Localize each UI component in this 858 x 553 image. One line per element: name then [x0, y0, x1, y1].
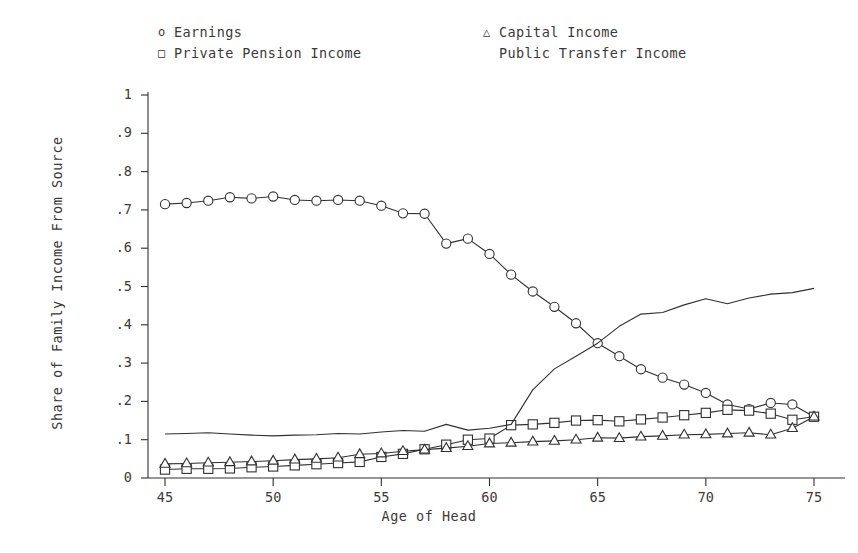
legend-label-capital-income: Capital Income: [499, 22, 618, 43]
data-point-marker: [182, 458, 192, 467]
data-point-marker: [701, 429, 711, 438]
x-axis-tick-label: 50: [253, 489, 293, 505]
triangle-marker-icon: △: [483, 22, 499, 43]
x-axis-tick-label: 60: [470, 489, 510, 505]
y-axis-tick-label: .6: [92, 239, 132, 255]
y-axis-tick-label: .2: [92, 392, 132, 408]
data-point-marker: [679, 429, 689, 438]
data-point-marker: [593, 416, 602, 425]
x-axis-tick-label: 55: [361, 489, 401, 505]
data-point-marker: [701, 408, 710, 417]
data-point-marker: [745, 406, 754, 415]
x-axis-tick-label: 45: [145, 489, 185, 505]
y-axis-tick-label: .8: [92, 163, 132, 179]
legend-column-right: △ Capital Income Public Transfer Income: [483, 22, 687, 64]
square-marker-icon: □: [158, 43, 174, 64]
data-point-marker: [744, 427, 754, 436]
data-point-marker: [290, 195, 299, 204]
data-point-marker: [269, 192, 278, 201]
data-point-marker: [377, 201, 386, 210]
legend-label-earnings: Earnings: [174, 22, 242, 43]
x-axis-tick-label: 65: [578, 489, 618, 505]
data-point-marker: [225, 193, 234, 202]
y-axis-tick-label: 1: [92, 86, 132, 102]
data-point-marker: [528, 287, 537, 296]
data-point-marker: [658, 373, 667, 382]
legend-item-earnings: o Earnings: [158, 22, 362, 43]
data-point-marker: [160, 200, 169, 209]
data-point-marker: [485, 249, 494, 258]
legend-label-private-pension-income: Private Pension Income: [174, 43, 362, 64]
data-point-marker: [788, 400, 797, 409]
data-point-marker: [507, 270, 516, 279]
data-point-marker: [766, 398, 775, 407]
y-axis-tick-label: .1: [92, 431, 132, 447]
data-point-marker: [355, 457, 364, 466]
data-point-marker: [680, 411, 689, 420]
data-point-marker: [701, 388, 710, 397]
data-point-marker: [571, 319, 580, 328]
data-point-marker: [571, 434, 581, 443]
series-public-transfer-income: [165, 288, 814, 435]
data-point-marker: [528, 420, 537, 429]
chart-figure: o Earnings □ Private Pension Income △ Ca…: [0, 0, 858, 553]
x-axis-tick-label: 75: [794, 489, 834, 505]
data-point-marker: [549, 435, 559, 444]
data-point-marker: [290, 454, 300, 463]
data-point-marker: [636, 415, 645, 424]
data-point-marker: [528, 436, 538, 445]
data-point-marker: [723, 405, 732, 414]
data-point-marker: [550, 418, 559, 427]
data-point-marker: [636, 431, 646, 440]
data-point-marker: [442, 239, 451, 248]
y-axis-tick-label: 0: [92, 469, 132, 485]
legend-item-private-pension-income: □ Private Pension Income: [158, 43, 362, 64]
y-axis-tick-label: .5: [92, 278, 132, 294]
data-point-marker: [247, 194, 256, 203]
data-point-marker: [658, 430, 668, 439]
data-point-marker: [311, 453, 321, 462]
data-point-marker: [680, 380, 689, 389]
x-axis-tick-label: 70: [686, 489, 726, 505]
y-axis-tick-label: .7: [92, 201, 132, 217]
y-axis-title: Share of Family Income From Source: [49, 118, 65, 448]
data-point-marker: [355, 449, 365, 458]
y-axis-tick-label: .9: [92, 124, 132, 140]
data-point-marker: [614, 433, 624, 442]
series-line: [165, 197, 814, 417]
legend-label-public-transfer-income: Public Transfer Income: [499, 43, 687, 64]
legend-column-left: o Earnings □ Private Pension Income: [158, 22, 362, 64]
data-point-marker: [463, 234, 472, 243]
data-point-marker: [182, 198, 191, 207]
x-axis-title: Age of Head: [0, 508, 858, 524]
data-point-marker: [593, 432, 603, 441]
data-point-marker: [571, 416, 580, 425]
data-point-marker: [615, 417, 624, 426]
series-line: [165, 288, 814, 435]
legend-item-public-transfer-income: Public Transfer Income: [483, 43, 687, 64]
data-point-marker: [160, 458, 170, 467]
data-point-marker: [506, 437, 516, 446]
data-point-marker: [615, 352, 624, 361]
data-point-marker: [225, 457, 235, 466]
data-point-marker: [550, 302, 559, 311]
data-point-marker: [268, 455, 278, 464]
series-earnings: [160, 192, 818, 421]
data-point-marker: [398, 209, 407, 218]
data-point-marker: [658, 413, 667, 422]
data-point-marker: [722, 428, 732, 437]
data-point-marker: [420, 209, 429, 218]
data-point-marker: [247, 456, 257, 465]
data-point-marker: [203, 457, 213, 466]
series-capital-income: [160, 411, 819, 467]
data-point-marker: [312, 196, 321, 205]
data-point-marker: [333, 195, 342, 204]
circle-marker-icon: o: [158, 22, 174, 43]
y-axis-tick-label: .4: [92, 316, 132, 332]
y-axis-tick-label: .3: [92, 354, 132, 370]
data-point-marker: [204, 196, 213, 205]
legend-item-capital-income: △ Capital Income: [483, 22, 687, 43]
data-point-marker: [766, 409, 775, 418]
data-point-marker: [636, 365, 645, 374]
data-point-marker: [355, 196, 364, 205]
